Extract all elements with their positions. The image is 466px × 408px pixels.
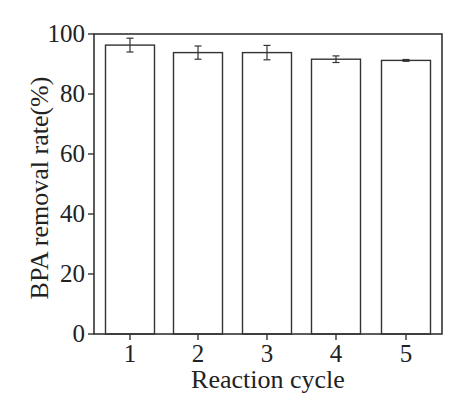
bar-cycle-1: [106, 45, 155, 334]
x-tick-label: 4: [330, 340, 343, 367]
y-tick-label: 100: [48, 20, 86, 47]
x-tick-label: 3: [261, 340, 274, 367]
x-axis-ticks: 12345: [124, 334, 413, 367]
y-tick-label: 40: [60, 200, 85, 227]
x-tick-label: 2: [192, 340, 205, 367]
bar-cycle-4: [312, 59, 361, 334]
y-axis-ticks: 020406080100: [48, 20, 95, 347]
y-tick-label: 60: [60, 140, 85, 167]
bar-cycle-2: [174, 53, 223, 334]
bars-group: [106, 45, 431, 334]
y-tick-label: 20: [60, 260, 85, 287]
x-tick-label: 1: [124, 340, 137, 367]
bar-chart: 020406080100 12345 Reaction cycle BPA re…: [0, 0, 466, 408]
bar-cycle-5: [382, 60, 431, 334]
y-tick-label: 0: [73, 320, 86, 347]
x-tick-label: 5: [400, 340, 413, 367]
y-axis-label: BPA removal rate(%): [25, 77, 54, 300]
bar-cycle-3: [243, 53, 292, 334]
x-axis-label: Reaction cycle: [191, 365, 345, 394]
y-tick-label: 80: [60, 80, 85, 107]
